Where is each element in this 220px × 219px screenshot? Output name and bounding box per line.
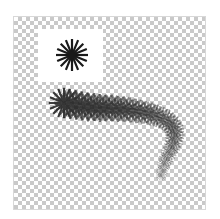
- brush-stroke: [49, 88, 185, 181]
- drawing-layer: [0, 0, 220, 219]
- starburst-brush-icon: [56, 39, 88, 71]
